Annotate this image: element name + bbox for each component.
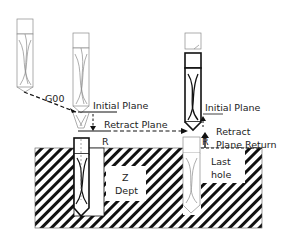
- drill-second-hole-icon: [185, 53, 201, 130]
- plane-return-label: Plane Return: [216, 140, 277, 150]
- initial-plane-label-right: Initial Plane: [205, 103, 260, 113]
- drill-initial-plane-icon: [73, 33, 89, 113]
- g00-label: G00: [45, 94, 64, 104]
- z-depth-label-line2: Dept: [115, 186, 138, 196]
- retract-plane-label: Retract Plane: [104, 120, 168, 130]
- right-arrow-icon: [181, 128, 188, 134]
- z-depth-label-line1: Z: [122, 173, 129, 183]
- last-hole-label-line2: hole: [211, 170, 231, 180]
- down-arrow-icon: [90, 126, 96, 131]
- drill-last-hole-icon: [183, 137, 200, 213]
- r-label-first-hole: R: [102, 137, 109, 147]
- initial-plane-label: Initial Plane: [93, 101, 148, 111]
- drill-first-hole-icon: [74, 138, 89, 216]
- drill-retract-ghost-icon: [185, 33, 201, 49]
- last-hole-label-line1: Last: [211, 157, 231, 167]
- r-label-last-hole: R: [202, 137, 209, 147]
- drill-start-icon: [17, 19, 33, 92]
- retract-label: Retract: [216, 127, 250, 137]
